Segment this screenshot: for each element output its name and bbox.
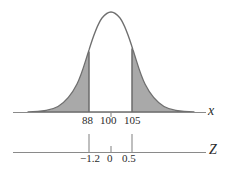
x-tick-label-105: 105 [124,115,141,126]
z-tick-label-0: 0 [107,153,113,164]
x-axis-name-label: x [208,104,214,118]
normal-distribution-figure: 88 100 105 −1.2 0 0.5 x Z [0,0,231,179]
z-axis-name-label: Z [209,143,217,157]
normal-curve-outline [28,12,194,112]
x-tick-label-88: 88 [82,115,93,126]
x-tick-label-100: 100 [100,115,117,126]
right-tail-shaded-region [28,12,194,112]
left-tail-shaded-region [28,12,194,112]
z-tick-label-0-5: 0.5 [122,153,136,164]
z-tick-label-minus-1-2: −1.2 [80,153,100,164]
distribution-chart-svg [0,0,231,179]
